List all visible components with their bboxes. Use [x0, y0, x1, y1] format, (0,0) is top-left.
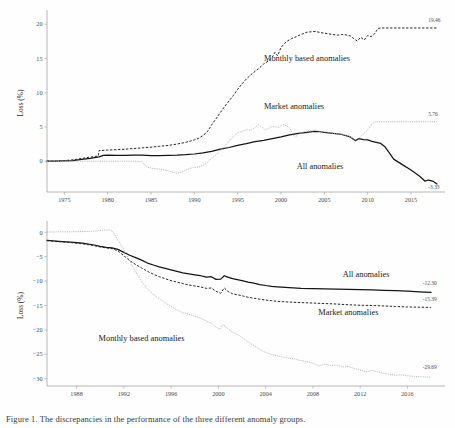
figure-caption-block: Figure 1. The discrepancies in the perfo…	[0, 405, 455, 428]
y-tick-label: 0	[39, 157, 42, 164]
series-annotation-market-anomalies: Market anomalies	[264, 102, 324, 111]
end-value-monthly-based-anomalies: -29.69	[423, 364, 437, 370]
series-annotation-monthly-based-anomalies: Monthly based anomalies	[264, 54, 350, 63]
x-tick-label: 2005	[318, 196, 330, 203]
y-tick-label: −25	[33, 350, 43, 357]
bottom-chart-svg: 0−5−10−15−20−25−301988199219962000200420…	[0, 213, 455, 405]
x-tick-label: 2008	[307, 390, 319, 397]
end-value-market-anomalies: -15.39	[423, 296, 437, 302]
y-tick-label: −20	[33, 326, 43, 333]
x-tick-label: 1988	[70, 390, 82, 397]
y-tick-label: 5	[39, 123, 42, 130]
y-tick-label: 20	[36, 20, 42, 27]
series-annotation-all-anomalies: All anomalies	[297, 162, 344, 171]
x-tick-label: 1996	[165, 390, 177, 397]
chart-panel-bottom: 0−5−10−15−20−25−301988199219962000200420…	[0, 213, 455, 405]
series-line-monthly-based-anomalies	[47, 230, 431, 377]
x-tick-label: 1975	[58, 196, 70, 203]
x-tick-label: 2010	[361, 196, 373, 203]
end-value-monthly-based-anomalies: 19.46	[428, 17, 440, 23]
y-tick-label: −10	[33, 277, 43, 284]
y-tick-label: 15	[36, 55, 42, 62]
x-tick-label: 2016	[401, 390, 413, 397]
y-tick-label: −5	[36, 253, 43, 260]
series-annotation-market-anomalies: Market anomalies	[318, 308, 378, 317]
end-value-market-anomalies: 5.76	[428, 111, 438, 117]
end-value-all-anomalies: -12.30	[423, 280, 437, 286]
x-tick-label: 1992	[118, 390, 130, 397]
x-tick-label: 1995	[231, 196, 243, 203]
x-tick-label: 2015	[405, 196, 417, 203]
y-tick-label: −15	[33, 302, 43, 309]
top-chart-svg: 0510152019751980198519901995200020052010…	[0, 0, 455, 213]
y-axis-title: Loss (%)	[16, 292, 25, 319]
series-line-all-anomalies	[47, 131, 437, 184]
x-tick-label: 2000	[212, 390, 224, 397]
x-tick-label: 2000	[275, 196, 287, 203]
x-tick-label: 2004	[259, 390, 271, 397]
series-annotation-all-anomalies: All anomalies	[343, 270, 390, 279]
y-tick-label: −30	[33, 375, 43, 382]
x-tick-label: 1985	[145, 196, 157, 203]
chart-panel-top: 0510152019751980198519901995200020052010…	[0, 0, 455, 213]
y-axis-title: Loss (%)	[16, 89, 25, 116]
figure-caption: Figure 1. The discrepancies in the perfo…	[0, 405, 455, 425]
figure-container: 0510152019751980198519901995200020052010…	[0, 0, 455, 428]
series-line-monthly-based-anomalies	[47, 28, 437, 161]
y-tick-label: 10	[36, 89, 42, 96]
series-line-market-anomalies	[47, 122, 437, 173]
end-value-all-anomalies: -3.33	[428, 184, 440, 190]
x-tick-label: 2012	[354, 390, 366, 397]
x-tick-label: 1990	[188, 196, 200, 203]
x-tick-label: 1980	[101, 196, 113, 203]
series-annotation-monthly-based-anomalies: Monthly based anomalies	[99, 334, 185, 343]
y-tick-label: 0	[39, 229, 42, 236]
